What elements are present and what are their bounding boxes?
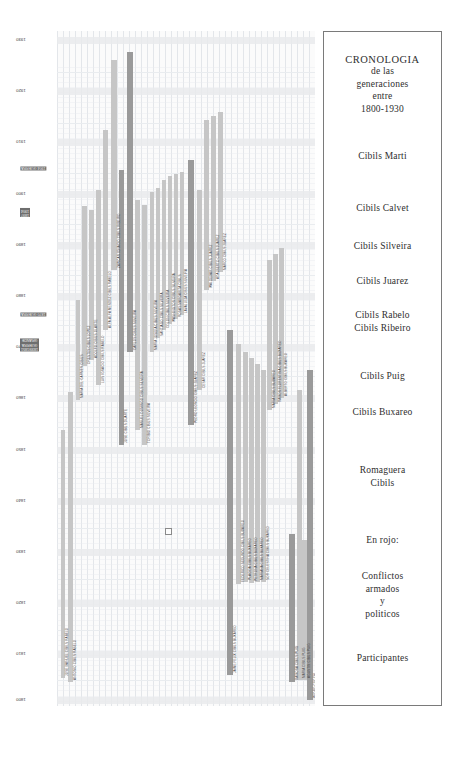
gridline-horizontal	[57, 462, 315, 463]
person-label: AGUSTIN CIBILS PUIG	[308, 643, 311, 678]
decade-band	[57, 37, 315, 44]
gridline-horizontal	[57, 457, 315, 458]
year-tick-label: 1900	[16, 191, 56, 196]
legend-label: En rojo:	[324, 534, 441, 547]
year-tick-label: 1850	[16, 447, 56, 452]
gridline-horizontal	[57, 630, 315, 631]
gridline-horizontal	[57, 609, 315, 610]
chronology-chart-page: JOSE MANUEL CIBILS RABELOANTONIO CIBILS …	[0, 0, 452, 759]
conflict-event-label: 1839/1851GUERRAGRANDE	[20, 338, 39, 351]
person-label: ALBERTO CIBILS BUXAREO	[285, 353, 288, 396]
gridline-horizontal	[57, 153, 315, 154]
legend-item-cibils-juarez: Cibils Juarez	[324, 275, 441, 288]
conflict-event-label: 18971904	[20, 208, 30, 217]
person-label: SOR CELESTINA CIBILS BUXAREO	[267, 526, 270, 580]
gridline-horizontal	[57, 614, 315, 615]
person-label: ROSAS MARGARITA CIBILS	[179, 274, 182, 317]
gridline-horizontal	[57, 685, 315, 686]
person-label: MARIA JOSEFA CIBILS SILVEIRA	[155, 300, 158, 350]
person-label: JOSE CIBILS DUARTE	[125, 409, 128, 443]
gridline-horizontal	[57, 584, 315, 585]
legend-label: Cibils Ribeiro	[324, 322, 441, 335]
gridline-horizontal	[57, 158, 315, 159]
person-bar	[127, 52, 133, 352]
legend-label: Cibils Puig	[324, 370, 441, 383]
person-label: COLON CIBILS SILVEIRA	[167, 290, 170, 328]
gridline-horizontal	[57, 574, 315, 575]
person-label: ADOLFO CIBILS OLARTE	[95, 319, 98, 358]
legend-label: Participantes	[324, 652, 441, 665]
person-label: MANUEL DOMINGO CIBILS SILVEIRA	[141, 371, 144, 428]
gridline-horizontal	[57, 417, 315, 418]
legend-label: Cibils Buxareo	[324, 406, 441, 419]
year-tick-label: 1800	[16, 697, 56, 702]
gridline-horizontal	[57, 478, 315, 479]
gridline-horizontal	[57, 163, 315, 164]
year-tick-label: 1910	[16, 139, 56, 144]
person-label: FEDERICO SEGUNDO CIBILS BUXAREO	[242, 520, 245, 582]
person-label: PEDRO LEONCIO CIBILS JUAREZ	[195, 371, 198, 423]
person-label: RAMON FLORENTINA CIBILS BUXAREO	[279, 340, 282, 402]
person-label: MARCO CIBILS JUAREZ	[224, 233, 227, 270]
legend-label: Cibils Calvet	[324, 202, 441, 215]
decade-band	[57, 549, 315, 556]
year-tick-label: 1860	[16, 395, 56, 400]
person-label: WASHINGTON CIBILS SILVEIRA	[173, 273, 176, 322]
year-tick-label: 1810	[16, 651, 56, 656]
gridline-horizontal	[57, 635, 315, 636]
gridline-horizontal	[57, 660, 315, 661]
person-label: PETRONA CIBILS BUXAREO	[255, 537, 258, 581]
legend-item-cibils-puig: Cibils Puig	[324, 370, 441, 383]
person-label: ALFA-ALFA MENDEZ CIBILS RABELO	[109, 271, 112, 328]
person-label: JOSE MANUEL CIBILS RABELO	[66, 628, 69, 676]
gridline-horizontal	[57, 123, 315, 124]
legend-label: politicos	[324, 608, 441, 621]
legend-label: Cibils Silveira	[324, 240, 441, 253]
gridline-horizontal	[57, 118, 315, 119]
year-tick-label: 1840	[16, 498, 56, 503]
year-tick-label: 1830	[16, 549, 56, 554]
decade-band	[57, 600, 315, 607]
gridline-horizontal	[57, 178, 315, 179]
legend-label: y	[324, 595, 441, 608]
gridline-horizontal	[57, 640, 315, 641]
gridline-horizontal	[57, 183, 315, 184]
gridline-horizontal	[57, 67, 315, 68]
gridline-horizontal	[57, 675, 315, 676]
gridline-horizontal	[57, 422, 315, 423]
decade-band	[57, 447, 315, 454]
decade-band	[57, 697, 315, 704]
gridline-horizontal	[57, 467, 315, 468]
gridline-horizontal	[57, 670, 315, 671]
gridline-horizontal	[57, 513, 315, 514]
person-label: RAMONA CIBILS PUIG	[296, 646, 299, 680]
title-line: CRONOLOGIA	[324, 54, 441, 65]
person-label: LAVALLEJA CIBILS SILVEIRA	[185, 269, 188, 313]
legend-item-cibils-buxareo: Cibils Buxareo	[324, 406, 441, 419]
gridline-horizontal	[57, 625, 315, 626]
gridline-horizontal	[57, 72, 315, 73]
legend-item-participantes: Participantes	[324, 652, 441, 665]
gridline-horizontal	[57, 533, 315, 534]
gridline-horizontal	[57, 559, 315, 560]
person-label: MARIANA CIBILS BUXAREO	[261, 537, 264, 580]
gridline-horizontal	[57, 82, 315, 83]
conflict-event-label: 1904 GUERRA	[20, 166, 46, 170]
legend-panel: CRONOLOGIA de las generaciones entre 180…	[323, 31, 442, 706]
gridline-horizontal	[57, 442, 315, 443]
gridline-horizontal	[57, 569, 315, 570]
gridline-horizontal	[57, 133, 315, 134]
gridline-horizontal	[57, 77, 315, 78]
person-label: ZAPICAN IGNACIO CIBILS RIBEIRO	[118, 213, 121, 268]
gridline-horizontal	[57, 690, 315, 691]
gridline-horizontal	[57, 97, 315, 98]
person-label: ORESTES CIBILS LOPEZ	[88, 326, 91, 364]
gridline-horizontal	[57, 437, 315, 438]
person-bar	[227, 330, 233, 675]
timeline-plot-area: JOSE MANUEL CIBILS RABELOANTONIO CIBILS …	[57, 31, 315, 706]
gridline-horizontal	[57, 432, 315, 433]
person-label: CARLOS CIBILS SILVEIRA	[134, 310, 137, 350]
gridline-horizontal	[57, 620, 315, 621]
gridline-horizontal	[57, 523, 315, 524]
gridline-horizontal	[57, 173, 315, 174]
